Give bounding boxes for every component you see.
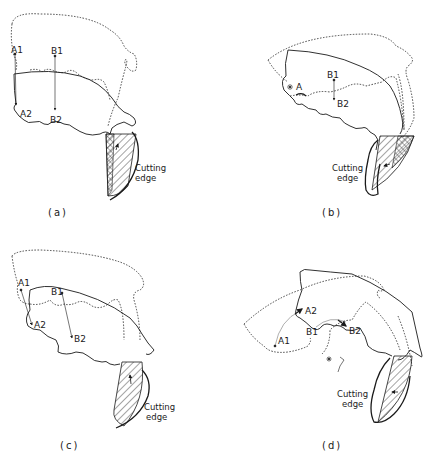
panel-caption-a: (a) bbox=[48, 207, 68, 218]
point-label-a1: A1 bbox=[278, 336, 290, 346]
panel-d-drawing bbox=[244, 269, 422, 422]
point-label-b1: B1 bbox=[51, 287, 63, 297]
cutting-edge-label-line1: Cutting bbox=[332, 163, 363, 173]
point-label-b2: B2 bbox=[74, 334, 86, 344]
cutting-edge-label-line1: Cutting bbox=[337, 389, 368, 399]
cutting-edge-label-line2: edge bbox=[146, 412, 167, 422]
cutting-edge-label-line1: Cutting bbox=[144, 402, 175, 412]
point-label-a2: A2 bbox=[20, 109, 32, 119]
point-label-a1: A1 bbox=[11, 45, 23, 55]
jaw-motion-figure: A1 B1 A2 B2 Cutting edge (a) A B1 B2 Cut… bbox=[0, 0, 426, 457]
point-label-a2: A2 bbox=[305, 306, 317, 316]
point-label-b1: B1 bbox=[51, 46, 63, 56]
point-label-b2: B2 bbox=[50, 115, 62, 125]
cutting-edge-label-line2: edge bbox=[342, 399, 363, 409]
point-label-b1: B1 bbox=[327, 70, 339, 80]
point-label-b1: B1 bbox=[306, 327, 318, 337]
point-label-b2: B2 bbox=[337, 99, 349, 109]
panel-a-drawing bbox=[11, 14, 138, 200]
point-label-a2: A2 bbox=[34, 320, 46, 330]
point-label-a1: A1 bbox=[18, 278, 30, 288]
cutting-edge-label-line2: edge bbox=[135, 173, 156, 183]
panel-caption-c: (c) bbox=[60, 440, 79, 451]
cutting-edge-label-line2: edge bbox=[337, 173, 358, 183]
point-label-b2: B2 bbox=[349, 326, 361, 336]
panel-caption-b: (b) bbox=[322, 207, 342, 218]
point-label-a: A bbox=[296, 82, 302, 92]
cutting-edge-label-line1: Cutting bbox=[135, 163, 166, 173]
panel-caption-d: (d) bbox=[322, 440, 342, 451]
